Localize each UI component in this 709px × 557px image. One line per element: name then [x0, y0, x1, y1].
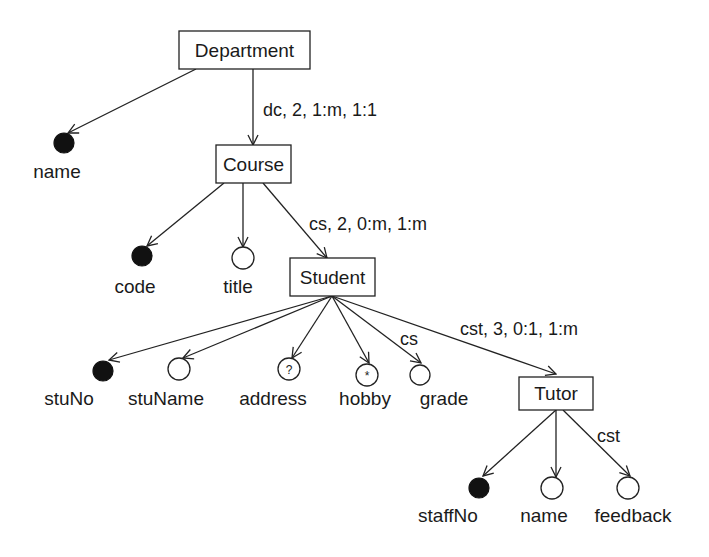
node-department: Department	[179, 31, 310, 69]
edge-label-dept-course: dc, 2, 1:m, 1:1	[263, 100, 377, 120]
key-attribute-dot-icon	[54, 133, 74, 153]
attribute-circle-icon	[617, 477, 639, 499]
node-student: Student	[290, 258, 375, 296]
edge-label-tutor-feedback: cst	[597, 426, 620, 446]
node-tutor: Tutor	[519, 377, 593, 410]
attribute-label-staffNo: staffNo	[418, 505, 478, 526]
edge-student-stuName	[183, 296, 332, 358]
edge-tutor-staffNo	[483, 410, 556, 476]
attribute-label-tutor-name: name	[520, 505, 568, 526]
attribute-circle-icon	[168, 358, 190, 380]
attribute-circle-icon	[410, 365, 430, 385]
attribute-circle-icon	[232, 247, 254, 269]
key-attribute-dot-icon	[93, 361, 113, 381]
attribute-label-hobby: hobby	[339, 388, 391, 409]
er-diagram: Department Course Student Tutor ? * name…	[0, 0, 709, 557]
edge-label-student-tutor: cst, 3, 0:1, 1:m	[460, 319, 578, 339]
attribute-label-name: name	[33, 161, 81, 182]
node-course: Course	[216, 145, 291, 183]
attribute-label-address: address	[239, 388, 307, 409]
attribute-label-grade: grade	[420, 388, 469, 409]
question-mark-icon: ?	[286, 363, 293, 377]
key-attribute-dot-icon	[132, 246, 152, 266]
edge-student-stuNo	[109, 296, 332, 360]
node-course-label: Course	[223, 154, 284, 175]
node-department-label: Department	[195, 40, 295, 61]
attribute-label-feedback: feedback	[594, 505, 672, 526]
node-student-label: Student	[300, 267, 366, 288]
edge-label-student-grade: cs	[400, 329, 418, 349]
attribute-label-stuNo: stuNo	[44, 388, 94, 409]
asterisk-icon: *	[365, 369, 370, 383]
edge-course-code	[147, 183, 224, 246]
edge-department-name	[68, 69, 196, 133]
edge-label-course-student: cs, 2, 0:m, 1:m	[309, 214, 427, 234]
attribute-label-code: code	[114, 276, 155, 297]
attribute-label-title: title	[223, 276, 253, 297]
attribute-label-stuName: stuName	[128, 388, 204, 409]
key-attribute-dot-icon	[469, 478, 489, 498]
node-tutor-label: Tutor	[534, 383, 578, 404]
attribute-circle-icon	[541, 477, 563, 499]
edge-student-hobby	[332, 296, 369, 363]
